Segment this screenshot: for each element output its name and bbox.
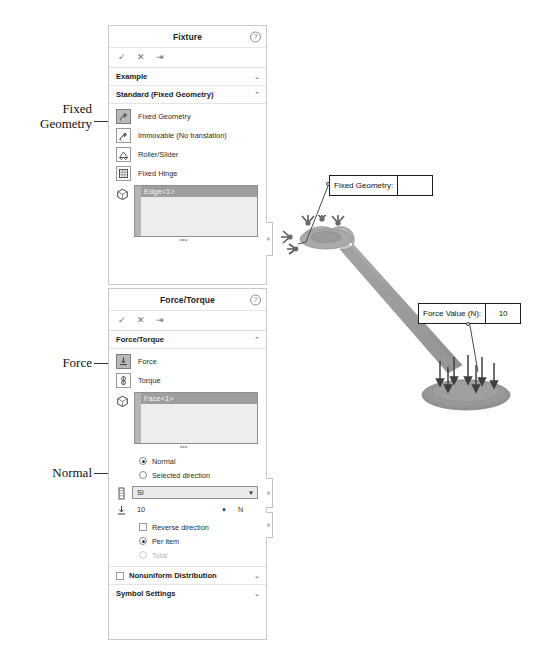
symbol-settings-header[interactable]: Symbol Settings ⌄ — [109, 584, 266, 602]
listbox-items: Face<1> — [141, 393, 257, 443]
chevron-down-icon[interactable]: ▼ — [221, 507, 227, 513]
radio-selected-direction[interactable] — [139, 471, 147, 479]
direction-option-normal[interactable]: Normal — [109, 454, 266, 468]
force-option-torque[interactable]: Torque — [109, 371, 266, 390]
force-command-bar: ✓ ✕ ⇥ — [109, 311, 266, 331]
annotation-force: Force — [18, 356, 92, 371]
symbol-settings-label: Symbol Settings — [116, 589, 176, 598]
list-item[interactable]: Edge<1> — [141, 186, 257, 197]
help-icon[interactable]: ? — [250, 31, 261, 42]
fixture-panel-edge-tab[interactable] — [266, 222, 273, 256]
fixed-geometry-callout[interactable]: Fixed Geometry: — [329, 175, 433, 196]
fixture-option-fixed-hinge[interactable]: Fixed Hinge — [109, 164, 266, 183]
force-selection-row: Face<1> — [109, 392, 266, 444]
resize-grip[interactable]: ••• — [109, 237, 258, 243]
accept-button[interactable]: ✓ — [118, 53, 126, 62]
nonuniform-distribution-header[interactable]: Nonuniform Distribution ⌄ — [109, 566, 266, 584]
units-icon — [116, 486, 127, 499]
force-type-section-header[interactable]: Force/Torque ⌃ — [109, 331, 266, 349]
help-icon[interactable]: ? — [250, 294, 261, 305]
standard-section-body: Fixed Geometry Immovable (No translation… — [109, 104, 266, 247]
fixture-command-bar: ✓ ✕ ⇥ — [109, 48, 266, 68]
force-type-section-body: Force Torque Face<1> ••• Normal — [109, 349, 266, 566]
example-section-header[interactable]: Example ⌄ — [109, 68, 266, 86]
radio-per-item[interactable] — [139, 537, 147, 545]
force-panel-edge-tab-lower[interactable] — [266, 512, 273, 538]
total-row[interactable]: Total — [109, 548, 266, 562]
roller-slider-icon[interactable] — [116, 147, 131, 162]
force-selection-listbox[interactable]: Face<1> — [134, 392, 258, 444]
chevron-down-icon[interactable]: ⌄ — [254, 590, 260, 597]
fixture-panel-title: Fixture — [173, 32, 202, 42]
chevron-down-icon[interactable]: ⌄ — [254, 572, 260, 579]
standard-section-header[interactable]: Standard (Fixed Geometry) ⌃ — [109, 86, 266, 104]
fixed-geometry-callout-value — [397, 176, 432, 195]
edge-tab-dot — [267, 238, 270, 241]
pin-button[interactable]: ⇥ — [156, 53, 164, 62]
fixture-option-label: Fixed Geometry — [138, 112, 191, 121]
force-panel-edge-tab-upper[interactable] — [266, 478, 273, 508]
edge-tab-dot — [267, 492, 270, 495]
fixed-geometry-icon[interactable] — [116, 109, 131, 124]
force-value-text: 10 — [137, 505, 145, 514]
chevron-up-icon[interactable]: ⌃ — [254, 91, 260, 98]
chevron-down-icon[interactable]: ▼ — [248, 490, 254, 496]
edge-tab-dot — [267, 524, 270, 527]
cancel-button[interactable]: ✕ — [137, 53, 145, 62]
radio-normal[interactable] — [139, 457, 147, 465]
radio-selected-direction-label: Selected direction — [152, 471, 210, 480]
force-value-icon — [116, 503, 127, 516]
force-option-label: Torque — [138, 376, 161, 385]
radio-total[interactable] — [139, 551, 147, 559]
per-item-label: Per item — [152, 537, 179, 546]
units-select[interactable]: SI ▼ — [132, 486, 258, 499]
units-value: SI — [137, 488, 144, 497]
list-item[interactable]: Face<1> — [141, 393, 257, 404]
nonuniform-distribution-label: Nonuniform Distribution — [129, 571, 217, 580]
checkbox-nonuniform-distribution[interactable] — [116, 572, 124, 580]
cancel-button[interactable]: ✕ — [137, 316, 145, 325]
fixture-option-immovable[interactable]: Immovable (No translation) — [109, 126, 266, 145]
units-row: SI ▼ — [109, 486, 266, 499]
force-icon[interactable] — [116, 354, 131, 369]
force-value-input[interactable]: 10 ▼ — [132, 503, 230, 516]
torque-icon[interactable] — [116, 373, 131, 388]
pin-button[interactable]: ⇥ — [156, 316, 164, 325]
fixed-geometry-callout-label: Fixed Geometry: — [330, 176, 397, 195]
callout-anchor-dot — [466, 322, 470, 326]
fixture-selection-row: Edge<1> — [109, 185, 266, 237]
face-select-icon — [116, 394, 129, 407]
force-panel-title-bar: Force/Torque ? — [109, 289, 266, 311]
force-value-callout-value: 10 — [485, 304, 520, 323]
reverse-direction-row[interactable]: Reverse direction — [109, 520, 266, 534]
fixture-option-label: Roller/Slider — [138, 150, 178, 159]
force-torque-property-panel: Force/Torque ? ✓ ✕ ⇥ Force/Torque ⌃ Forc… — [108, 288, 267, 640]
force-value-row: 10 ▼ N — [109, 503, 266, 516]
accept-button[interactable]: ✓ — [118, 316, 126, 325]
fixture-property-panel: Fixture ? ✓ ✕ ⇥ Example ⌄ Standard (Fixe… — [108, 25, 267, 285]
force-type-section-label: Force/Torque — [116, 335, 164, 344]
force-option-force[interactable]: Force — [109, 352, 266, 371]
direction-option-selected[interactable]: Selected direction — [109, 468, 266, 482]
fixture-option-roller-slider[interactable]: Roller/Slider — [109, 145, 266, 164]
face-select-icon — [116, 187, 129, 200]
force-option-label: Force — [138, 357, 157, 366]
example-section-label: Example — [116, 72, 147, 81]
immovable-icon[interactable] — [116, 128, 131, 143]
checkbox-reverse-direction[interactable] — [139, 523, 147, 531]
standard-section-label: Standard (Fixed Geometry) — [116, 90, 213, 99]
chevron-up-icon[interactable]: ⌃ — [254, 336, 260, 343]
fixture-option-label: Immovable (No translation) — [138, 131, 227, 140]
fixture-panel-title-bar: Fixture ? — [109, 26, 266, 48]
resize-grip[interactable]: ••• — [109, 444, 258, 450]
fixture-selection-listbox[interactable]: Edge<1> — [134, 185, 258, 237]
force-panel-title: Force/Torque — [160, 295, 215, 305]
fixed-hinge-icon[interactable] — [116, 166, 131, 181]
fixture-option-fixed-geometry[interactable]: Fixed Geometry — [109, 107, 266, 126]
chevron-down-icon[interactable]: ⌄ — [254, 73, 260, 80]
total-label: Total — [152, 551, 167, 560]
radio-normal-label: Normal — [152, 457, 176, 466]
annotation-fixed-geometry: Fixed Geometry — [18, 102, 92, 132]
force-value-callout[interactable]: Force Value (N): 10 — [418, 303, 521, 324]
per-item-row[interactable]: Per item — [109, 534, 266, 548]
